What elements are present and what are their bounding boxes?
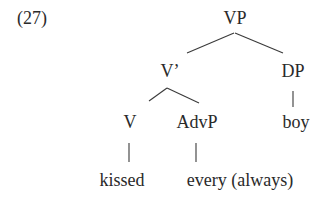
node-v: V — [124, 112, 137, 132]
node-dp: DP — [281, 61, 304, 81]
node-advp: AdvP — [176, 112, 217, 132]
leaf-every-always: every (always) — [187, 170, 293, 190]
leaf-kissed: kissed — [100, 170, 145, 190]
edge-vp-dp — [235, 33, 283, 53]
edge-vbar-advp — [167, 88, 199, 103]
leaf-boy: boy — [283, 112, 310, 132]
node-v-bar: V’ — [161, 61, 180, 81]
edge-vbar-v — [149, 88, 167, 101]
node-vp: VP — [223, 8, 246, 28]
edge-vp-vbar — [187, 33, 234, 53]
